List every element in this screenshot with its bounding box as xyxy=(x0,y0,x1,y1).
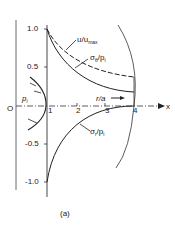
radial-coordinate-label: r/a xyxy=(96,94,106,103)
y-tick-0-5: 0.5 xyxy=(27,62,39,71)
outer-boundary-arc xyxy=(116,25,135,168)
pressure-label: pi xyxy=(21,94,28,104)
displacement-label: u/umax xyxy=(77,35,98,45)
radial-stress-label: σr/pi xyxy=(90,127,104,137)
radial-arrow-icon xyxy=(120,96,125,100)
y-tick-1: 1.0 xyxy=(27,24,39,33)
y-tick-neg-0-5: -0.5 xyxy=(25,139,39,148)
x-tick-3: 3 xyxy=(105,106,110,115)
x-axis-arrow-icon xyxy=(158,103,165,109)
y-tick-neg-1: -1.0 xyxy=(25,177,39,186)
stress-distribution-diagram: 1.0 0.5 -0.5 -1.0 O 1 2 3 4 x r/a pi u/u… xyxy=(0,0,175,225)
radial-stress-curve xyxy=(47,106,134,182)
x-axis-label: x xyxy=(166,102,170,111)
figure-caption: (a) xyxy=(60,209,70,218)
hoop-stress-label: σθ/pi xyxy=(90,53,106,63)
x-tick-2: 2 xyxy=(76,106,81,115)
x-tick-1: 1 xyxy=(48,106,53,115)
inner-boundary-arc xyxy=(28,77,46,130)
origin-label: O xyxy=(7,104,13,113)
